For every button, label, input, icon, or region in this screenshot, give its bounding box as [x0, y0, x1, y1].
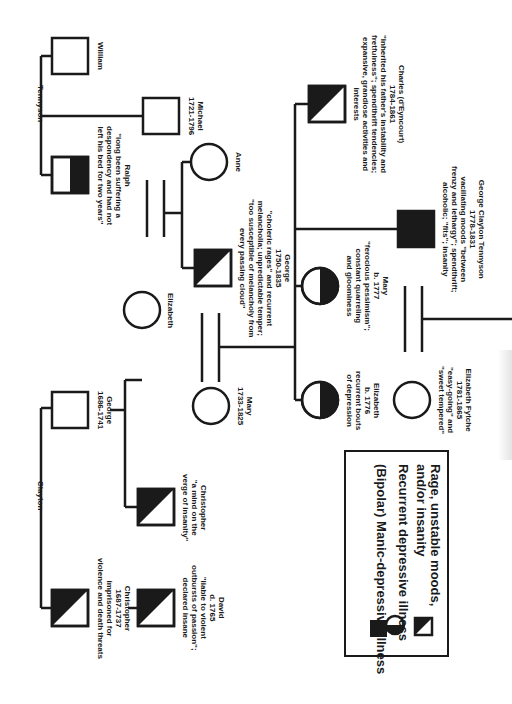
person-label-line: "a mind on the [190, 474, 199, 541]
person-symbol-christopher-b [138, 489, 174, 525]
person-label-line: David [217, 565, 226, 651]
legend: (Bipolar) Manic-depressive illness Recur… [344, 450, 449, 657]
person-label-david: Davidd. 1765"liable to violentoutbursts … [181, 565, 226, 651]
person-label-line: George Clayton Tennyson [477, 166, 486, 292]
person-label-george1750: George1750-1835"choleric rages" and recu… [238, 199, 292, 337]
person-label-line: "inherited his father's instability and [379, 35, 388, 173]
person-label-mary1777: Maryb. 1777"ferocious pessimism";constan… [345, 241, 390, 331]
person-label-line: Ralph [123, 126, 132, 225]
person-label-line: Charles (d'Eyncourt) [397, 35, 406, 173]
person-label-line: Elizabeth [372, 371, 381, 430]
person-label-line: Elizabeth [166, 293, 175, 328]
legend-label-bipolar: (Bipolar) Manic-depressive illness [374, 464, 388, 674]
person-label-elizabeth1776: Elizabethb. 1776recurrent boutsof depres… [345, 371, 381, 430]
person-label-line: of depression [345, 371, 354, 430]
person-label-line: verge of insanity" [181, 474, 190, 541]
person-label-line: "ferocious pessimism"; [363, 241, 372, 331]
person-symbol-george-clayton [398, 211, 434, 247]
person-label-line: every passing cloud" [238, 199, 247, 337]
person-label-line: constant quarreling [354, 241, 363, 331]
marriage-line-tennyson [147, 162, 195, 268]
person-label-line: "sweet tempered" [437, 366, 446, 434]
person-label-line: Anne [234, 152, 243, 172]
person-symbol-george1750 [195, 250, 231, 286]
person-label-christopher-a: Christopher1687-1737imprisoned forviolen… [96, 558, 132, 659]
person-label-line: William [96, 42, 105, 70]
legend-label-recurrent-depressive: Recurrent depressive illness [396, 464, 410, 641]
person-label-line: "choleric rages" and recurrent [265, 199, 274, 337]
person-label-line: expansive, grandiose activities and [361, 35, 370, 173]
person-label-george-clayton: George Clayton Tennyson1778-1831vacillat… [441, 166, 486, 292]
person-label-line: 1733-1825 [236, 387, 245, 425]
person-label-line: George [105, 391, 114, 429]
person-label-line: vacillating moods "between [459, 166, 468, 292]
person-label-line: 1778-1831 [468, 166, 477, 292]
person-label-line: b. 1777 [372, 241, 381, 331]
person-label-line: 1686-1741 [96, 391, 105, 429]
person-label-line: 1750-1835 [274, 199, 283, 337]
person-label-line: "long been suffering a [114, 126, 123, 225]
legend-label-rage: Rage, unstable moods,and/or insanity [414, 464, 442, 606]
person-label-line: d. 1765 [208, 565, 217, 651]
person-label-ralph: Ralph"long been suffering adespondency a… [96, 126, 132, 225]
person-label-line: interests [352, 35, 361, 173]
person-symbol-anne [191, 144, 227, 180]
person-label-line: outbursts of passion"; [190, 565, 199, 651]
person-label-charles: Charles (d'Eyncourt)1784-1861"inherited … [352, 35, 406, 173]
person-symbol-mary1777 [302, 268, 338, 304]
family-label-tennyson: Tennyson [36, 85, 45, 122]
person-label-michael: Michael1721-1796 [187, 97, 205, 135]
person-label-line: declared insane [181, 565, 190, 651]
person-label-line: Elizabeth Fytche [464, 366, 473, 434]
person-symbol-elizabeth-fytche [394, 382, 430, 418]
person-symbol-elizabeth1776 [302, 382, 338, 418]
person-label-line: despondency and had not [105, 126, 114, 225]
person-label-anne: Anne [234, 152, 243, 172]
person-label-line: violence and death threats [96, 558, 105, 659]
page-edge-shadow [498, 350, 512, 460]
person-label-line: alcoholic; "fits"; insanity [441, 166, 450, 292]
person-label-line: "easy-going" and [446, 366, 455, 434]
person-label-line: Michael [196, 97, 205, 135]
person-label-christopher-b: Christopher"a mind on theverge of insani… [181, 474, 208, 541]
family-label-clayton: Clayton [36, 481, 45, 510]
person-symbol-charles [309, 86, 345, 122]
person-label-line: fretfulness"; spendthrift tendencies; [370, 35, 379, 173]
person-label-line: b. 1776 [363, 371, 372, 430]
legend-rage-icon [415, 618, 432, 635]
person-label-line: 1784-1861 [388, 35, 397, 173]
person-label-line: Mary [245, 387, 254, 425]
person-label-mary1733: Mary1733-1825 [236, 387, 254, 425]
person-label-line: 1721-1796 [187, 97, 196, 135]
person-symbol-christopher-a [52, 590, 88, 626]
person-label-line: and gloominess [345, 241, 354, 331]
person-label-line: George [283, 199, 292, 337]
person-symbol-ralph [52, 157, 88, 193]
person-label-elizabeth-clayton: Elizabeth [166, 293, 175, 328]
person-label-george1686: George1686-1741 [96, 391, 114, 429]
person-label-line: "liable to violent [199, 565, 208, 651]
person-label-line: Christopher [199, 474, 208, 541]
person-label-line: frenzy and lethargy"; spendthrift; [450, 166, 459, 292]
person-label-line: "too susceptible of melancholy from [247, 199, 256, 337]
person-label-line: 1687-1737 [114, 558, 123, 659]
person-label-william: William [96, 42, 105, 70]
person-label-line: Christopher [123, 558, 132, 659]
marriage-line-george-clayton [405, 286, 512, 352]
person-symbol-william [52, 38, 88, 74]
person-label-line: recurrent bouts [354, 371, 363, 430]
person-label-line: left his bed for two years" [96, 126, 105, 225]
person-label-line: Mary [381, 241, 390, 331]
person-label-line: 1781-1865 [455, 366, 464, 434]
person-label-line: imprisoned for [105, 558, 114, 659]
person-symbol-mary1733 [193, 388, 229, 424]
person-label-line: melancholia; unpredictable temper; [256, 199, 265, 337]
person-symbol-michael [143, 98, 179, 134]
person-symbol-george1686 [52, 392, 88, 428]
person-symbol-elizabeth-clayton [124, 292, 160, 328]
person-symbol-david [138, 590, 174, 626]
person-label-elizabeth-fytche: Elizabeth Fytche1781-1865"easy-going" an… [437, 366, 473, 434]
